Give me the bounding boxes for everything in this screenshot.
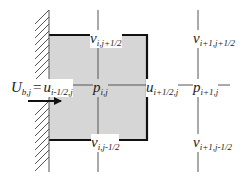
label-v-bottom-center: vi,j-1/2 — [91, 134, 119, 152]
label-boundary-velocity: Ub,j=ui-1/2,j — [11, 79, 73, 97]
label-v-bottom-right: vi+1,j-1/2 — [193, 134, 232, 152]
staggered-grid-diagram: vi,j+1/2 vi+1,j+1/2 Ub,j=ui-1/2,j pi,j u… — [0, 0, 249, 182]
label-v-top-right: vi+1,j+1/2 — [193, 30, 235, 48]
label-u-right: ui+1/2,j — [146, 79, 178, 97]
label-p-center: pi,j — [93, 79, 108, 97]
label-v-top-center: vi,j+1/2 — [90, 30, 122, 48]
label-p-right: pi+1,j — [193, 79, 218, 97]
